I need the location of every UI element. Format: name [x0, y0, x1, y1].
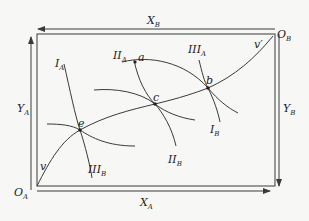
point-e-label: e [78, 117, 85, 130]
curve-iia-label: IIA [112, 49, 127, 64]
curve-end-v-prime-label: v′ [254, 38, 263, 51]
point-c-label: c [153, 91, 159, 104]
curve-ia-label: IA [54, 57, 64, 72]
contract-curve [37, 36, 273, 186]
point-b-label: b [206, 74, 213, 87]
origin-b-label: OB [277, 28, 291, 43]
edgeworth-box-diagram: OA OB XA YA XB YB IA IIA IIIA IB IIB III… [0, 0, 309, 221]
curve-end-v-label: v [40, 160, 47, 173]
axis-xb-label: XB [146, 14, 160, 29]
origin-a-label: OA [14, 186, 28, 201]
curve-iiia-label: IIIA [187, 43, 206, 58]
axis-ya-label: YA [17, 102, 29, 117]
axis-xa-label: XA [139, 196, 153, 211]
point-a-label: a [138, 51, 145, 64]
point-a [133, 60, 136, 63]
axis-yb-label: YB [283, 102, 295, 117]
curve-iib-label: IIB [167, 153, 182, 168]
indifference-curve-iib [94, 90, 195, 120]
indifference-curve-ib [122, 59, 238, 113]
edgeworth-box [37, 34, 275, 186]
indifference-curve-iiib [47, 124, 135, 146]
curve-ib-label: IB [209, 123, 220, 138]
indifference-curve-iiia [199, 60, 220, 122]
curve-iiib-label: IIIB [87, 163, 106, 178]
